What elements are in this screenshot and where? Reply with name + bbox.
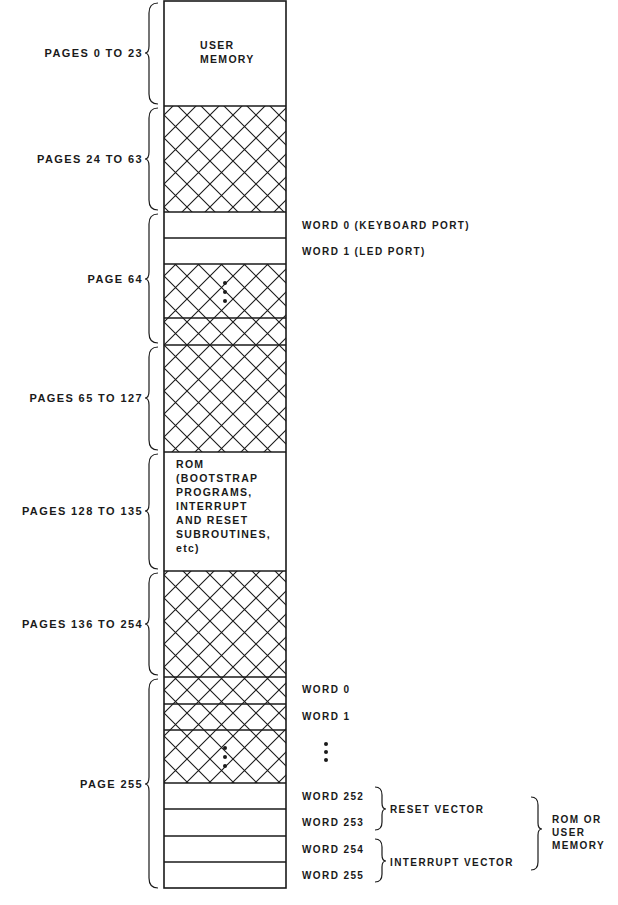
label-rom-or-user-memory: ROM OR USER MEMORY	[552, 813, 605, 852]
region-pages-65-127	[164, 345, 286, 452]
ellipsis-icon	[324, 742, 328, 762]
label-pages-128-135: PAGES 128 TO 135	[22, 505, 143, 518]
label-pages-0-23: PAGES 0 TO 23	[45, 47, 144, 60]
label-page64-word0: WORD 0 (KEYBOARD PORT)	[302, 219, 470, 232]
label-page255-word0: WORD 0	[302, 683, 350, 696]
label-reset-vector: RESET VECTOR	[390, 803, 484, 816]
brace-icons-left	[145, 3, 158, 888]
label-pages-136-254: PAGES 136 TO 254	[22, 618, 143, 631]
user-memory-text: USER MEMORY	[200, 38, 255, 66]
label-page-255: PAGE 255	[80, 778, 143, 791]
region-pages-136-254	[164, 571, 286, 677]
label-word-253: WORD 253	[302, 816, 364, 829]
label-page-64: PAGE 64	[88, 273, 143, 286]
label-word-255: WORD 255	[302, 869, 364, 882]
page64-hatched-words	[164, 264, 286, 345]
memory-map-diagram	[0, 0, 618, 905]
region-pages-24-63	[164, 106, 286, 212]
label-word-252: WORD 252	[302, 790, 364, 803]
label-word-254: WORD 254	[302, 843, 364, 856]
label-pages-24-63: PAGES 24 TO 63	[37, 153, 143, 166]
label-pages-65-127: PAGES 65 TO 127	[29, 392, 143, 405]
label-page64-word1: WORD 1 (LED PORT)	[302, 245, 426, 258]
rom-description-text: ROM (BOOTSTRAP PROGRAMS, INTERRUPT AND R…	[176, 457, 271, 555]
label-page255-word1: WORD 1	[302, 710, 350, 723]
label-interrupt-vector: INTERRUPT VECTOR	[390, 856, 514, 869]
